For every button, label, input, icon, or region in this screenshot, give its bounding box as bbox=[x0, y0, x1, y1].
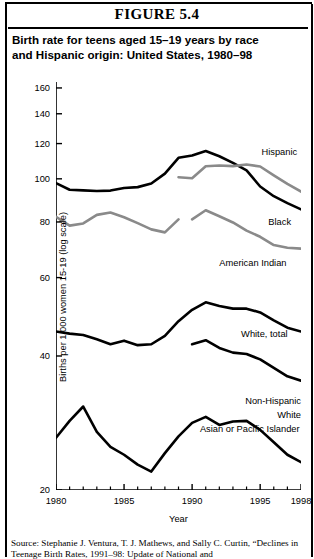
figure-title-line2: and Hispanic origin: United States, 1980… bbox=[12, 47, 304, 62]
x-tick-label: 1995 bbox=[250, 496, 271, 506]
x-axis-label: Year bbox=[56, 514, 301, 524]
y-tick-label: 120 bbox=[34, 139, 50, 149]
series-label-asian-pacific-islander: Asian or Pacific Islander bbox=[56, 424, 300, 435]
series-label-hispanic: Hispanic bbox=[262, 147, 298, 158]
chart-plot-area: Births per 1,000 women 15-19 (log scale)… bbox=[56, 82, 301, 490]
y-tick-label: 140 bbox=[34, 109, 50, 119]
series-label-black: Black bbox=[268, 217, 291, 228]
y-tick-label: 20 bbox=[40, 485, 50, 495]
figure-number: FIGURE 5.4 bbox=[0, 6, 314, 23]
y-axis-label: Births per 1,000 women 15-19 (log scale) bbox=[58, 366, 68, 382]
figure-title-line1: Birth rate for teens aged 15–19 years by… bbox=[12, 32, 304, 47]
series-label-non-hispanic-white-line2: White bbox=[56, 410, 301, 421]
figure-title: Birth rate for teens aged 15–19 years by… bbox=[12, 32, 304, 62]
y-tick-label: 80 bbox=[40, 217, 50, 227]
x-tick-label: 1985 bbox=[114, 496, 135, 506]
title-divider bbox=[8, 27, 308, 29]
x-tick-label: 1998 bbox=[291, 496, 312, 506]
x-tick-label: 1990 bbox=[182, 496, 203, 506]
y-tick-label: 160 bbox=[34, 83, 50, 93]
series-label-american-indian: American Indian bbox=[219, 258, 286, 269]
source-note: Source: Stephanie J. Ventura, T. J. Math… bbox=[11, 538, 307, 559]
figure-page: FIGURE 5.4 Birth rate for teens aged 15–… bbox=[0, 0, 314, 559]
x-tick-label: 1980 bbox=[46, 496, 67, 506]
y-tick-label: 60 bbox=[40, 273, 50, 283]
series-label-non-hispanic-white: Non-Hispanic bbox=[56, 396, 301, 407]
y-tick-label: 40 bbox=[40, 351, 50, 361]
y-tick-label: 100 bbox=[34, 174, 50, 184]
series-label-white-total: White, total bbox=[241, 329, 288, 340]
source-line1: Source: Stephanie J. Ventura, T. J. Math… bbox=[11, 538, 250, 548]
